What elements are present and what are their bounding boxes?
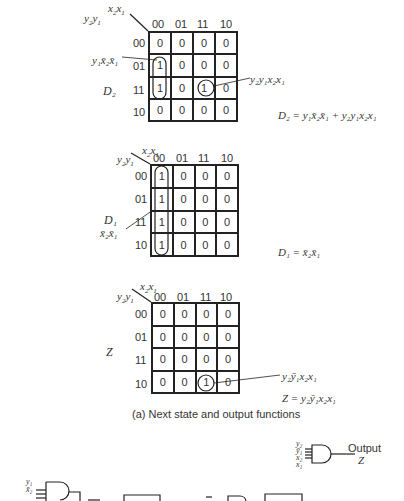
leader-line bbox=[214, 78, 250, 86]
leader-line bbox=[214, 375, 280, 383]
corner-diagonal bbox=[130, 14, 148, 31]
group-loop bbox=[155, 166, 168, 255]
leader-line bbox=[126, 210, 153, 229]
diagram-overlay bbox=[0, 0, 404, 501]
flipflop-box bbox=[124, 495, 160, 501]
corner-diagonal bbox=[131, 153, 150, 164]
group-loop bbox=[153, 57, 166, 99]
corner-diagonal bbox=[132, 289, 151, 302]
and-gate-icon bbox=[312, 445, 331, 463]
group-loop bbox=[198, 375, 214, 391]
leader-line bbox=[122, 57, 157, 60]
group-loop bbox=[198, 80, 214, 96]
and-gate-icon bbox=[46, 482, 69, 500]
gate-icon bbox=[228, 496, 246, 501]
flipflop-box bbox=[265, 494, 302, 501]
